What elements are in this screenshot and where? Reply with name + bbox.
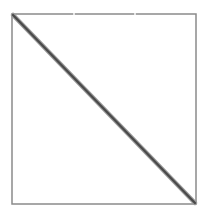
diagram-canvas	[0, 0, 209, 216]
top-border-gap-2	[134, 13, 136, 15]
top-border-gap-1	[73, 13, 75, 15]
diagonal-line	[13, 15, 195, 203]
